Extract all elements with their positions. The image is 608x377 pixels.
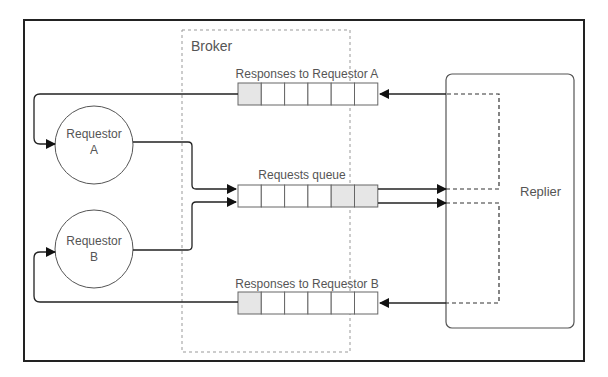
- queue-cell: [285, 185, 308, 207]
- queue-cell: [308, 292, 331, 314]
- arrow-a-to-requests: [133, 142, 236, 189]
- requestor-a: Requestor A: [55, 106, 133, 184]
- queue-cell: [238, 292, 261, 314]
- queue-cell: [331, 292, 354, 314]
- svg-text:Requestor: Requestor: [66, 234, 121, 248]
- queue-cell: [355, 83, 378, 105]
- queue-cell: [238, 83, 261, 105]
- replier-box: [446, 74, 574, 328]
- queue-cell: [261, 185, 284, 207]
- queue-cell: [238, 185, 261, 207]
- svg-text:A: A: [90, 143, 98, 157]
- responses-b-queue: [238, 292, 378, 314]
- broker-diagram: Broker Replier Requestor A Requestor B R…: [0, 0, 608, 377]
- queue-cell: [261, 83, 284, 105]
- svg-text:B: B: [90, 250, 98, 264]
- requestor-b: Requestor B: [55, 210, 133, 288]
- queue-cell: [308, 185, 331, 207]
- queue-cell: [355, 292, 378, 314]
- responses-a-queue: [238, 83, 378, 105]
- replier-label: Replier: [520, 184, 562, 199]
- queue-cell: [331, 185, 354, 207]
- responses-a-label: Responses to Requestor A: [236, 67, 379, 81]
- svg-text:Requestor: Requestor: [66, 127, 121, 141]
- queue-cell: [308, 83, 331, 105]
- queue-cell: [331, 83, 354, 105]
- responses-b-label: Responses to Requestor B: [235, 277, 378, 291]
- replier-route-a: [446, 94, 499, 189]
- queue-cell: [285, 292, 308, 314]
- queue-cell: [285, 83, 308, 105]
- requests-queue-label: Requests queue: [258, 168, 346, 182]
- broker-label: Broker: [191, 38, 233, 54]
- queue-cell: [355, 185, 378, 207]
- replier-route-b: [446, 203, 499, 303]
- arrow-b-to-requests: [133, 202, 236, 250]
- queue-cell: [261, 292, 284, 314]
- requests-queue: [238, 185, 378, 207]
